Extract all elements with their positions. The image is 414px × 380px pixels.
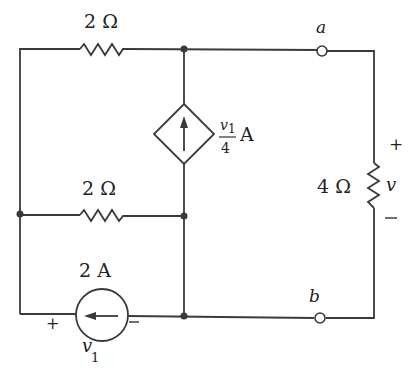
terminal-a-label: a bbox=[316, 17, 326, 37]
source-voltage-label: v 1 bbox=[82, 335, 99, 365]
resistor-top bbox=[80, 44, 127, 55]
current-source bbox=[76, 289, 128, 341]
svg-text:v: v bbox=[220, 117, 228, 133]
resistor-top-label: 2 Ω bbox=[84, 10, 118, 32]
node-top bbox=[181, 46, 188, 53]
node-bottom bbox=[181, 313, 188, 320]
svg-text:4: 4 bbox=[221, 140, 230, 156]
terminal-b bbox=[315, 313, 325, 323]
dependent-source-label: v 1 4 A bbox=[219, 117, 254, 156]
node-mid-right bbox=[181, 213, 188, 220]
dependent-current-source bbox=[154, 104, 214, 164]
terminal-a bbox=[317, 46, 327, 56]
svg-text:1: 1 bbox=[91, 350, 99, 365]
arrow-left-icon bbox=[84, 312, 96, 320]
terminal-b-label: b bbox=[309, 286, 320, 306]
arrow-up-icon bbox=[180, 116, 188, 128]
node-mid-left bbox=[17, 211, 24, 218]
source-plus-sign: + bbox=[46, 314, 59, 333]
load-plus-sign: + bbox=[389, 134, 403, 154]
resistor-middle-label: 2 Ω bbox=[82, 177, 116, 199]
svg-text:1: 1 bbox=[228, 122, 236, 136]
current-source-label: 2 A bbox=[79, 259, 111, 281]
resistor-middle bbox=[80, 210, 127, 221]
load-voltage-label: v bbox=[386, 174, 396, 195]
circuit-diagram: 2 Ω 2 Ω 4 Ω + v v 1 4 A 2 A + v 1 a bbox=[0, 0, 414, 380]
resistor-load-label: 4 Ω bbox=[317, 175, 351, 197]
svg-text:A: A bbox=[239, 123, 254, 145]
resistor-load bbox=[368, 163, 379, 208]
